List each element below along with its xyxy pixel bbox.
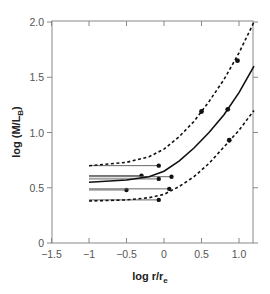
segment-end-marker — [169, 175, 173, 179]
y-tick-label: 2.0 — [29, 16, 44, 28]
y-tick-label: 1.0 — [29, 127, 44, 139]
segment-end-marker — [157, 163, 161, 167]
y-tick-label: 0.5 — [29, 182, 44, 194]
dashed-bound-curve — [89, 22, 254, 166]
x-tick-label: 0.5 — [194, 248, 209, 260]
segment-end-marker — [157, 198, 161, 202]
data-point — [225, 107, 230, 112]
data-point — [235, 58, 240, 63]
data-point — [227, 138, 232, 143]
curves — [89, 22, 254, 201]
data-point — [199, 109, 204, 114]
horizontal-segments — [89, 163, 174, 202]
solid-model-curve — [89, 66, 254, 182]
y-tick-label: 1.5 — [29, 71, 44, 83]
x-tick-label: −1.5 — [41, 248, 62, 260]
y-axis-label: log (M/LB) — [10, 106, 25, 158]
x-tick-label: 1.0 — [232, 248, 247, 260]
segment-end-marker — [157, 177, 161, 181]
x-tick-label: −1 — [83, 248, 95, 260]
y-tick-label: 0 — [38, 237, 44, 249]
dashed-bound-curve — [89, 110, 254, 201]
chart: −1.5−1−0.500.51.0 00.51.01.52.0 log r/re… — [0, 0, 270, 294]
plot-frame — [52, 21, 253, 243]
x-tick-label: −0.5 — [116, 248, 137, 260]
x-axis-label: log r/re — [132, 270, 168, 285]
x-tick-label: 0 — [161, 248, 167, 260]
y-axis-ticks: 00.51.01.52.0 — [29, 16, 258, 249]
x-axis-ticks: −1.5−1−0.500.51.0 — [41, 21, 246, 260]
